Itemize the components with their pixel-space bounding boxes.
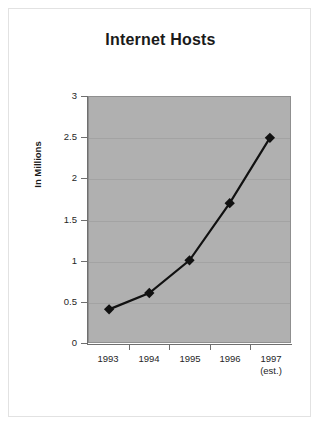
- x-axis-tick: [210, 345, 211, 350]
- y-axis-tick: [81, 178, 87, 179]
- x-axis-tick-label: 1997(est.): [244, 353, 298, 377]
- plot-area: [88, 96, 291, 343]
- chart-title: Internet Hosts: [9, 31, 312, 49]
- series-polyline: [109, 138, 270, 310]
- y-axis-tick: [81, 96, 87, 97]
- y-axis-tick-label: 1.5: [37, 215, 77, 225]
- series-markers: [104, 133, 275, 315]
- y-axis-tick-label: 2: [37, 173, 77, 183]
- y-axis-tick: [81, 302, 87, 303]
- y-axis-tick-label: 1: [37, 256, 77, 266]
- x-axis-tick-sublabel: (est.): [244, 365, 298, 377]
- y-axis-title: In Millions: [32, 105, 43, 225]
- y-axis-tick: [81, 137, 87, 138]
- y-axis-tick-label: 0: [37, 338, 77, 348]
- y-axis-tick-label: 2.5: [37, 132, 77, 142]
- x-axis-line: [87, 344, 292, 345]
- y-axis-tick: [81, 220, 87, 221]
- y-axis-tick: [81, 261, 87, 262]
- chart-card: Internet Hosts In Millions 00.511.522.53…: [8, 8, 311, 417]
- x-axis-tick: [169, 345, 170, 350]
- x-axis-tick: [129, 345, 130, 350]
- y-axis-tick-label: 3: [37, 91, 77, 101]
- data-point-marker: [104, 304, 114, 314]
- y-axis-tick-label: 0.5: [37, 297, 77, 307]
- y-axis-tick: [81, 343, 87, 344]
- x-axis-tick: [250, 345, 251, 350]
- data-point-marker: [265, 133, 275, 143]
- data-series-line: [89, 97, 290, 342]
